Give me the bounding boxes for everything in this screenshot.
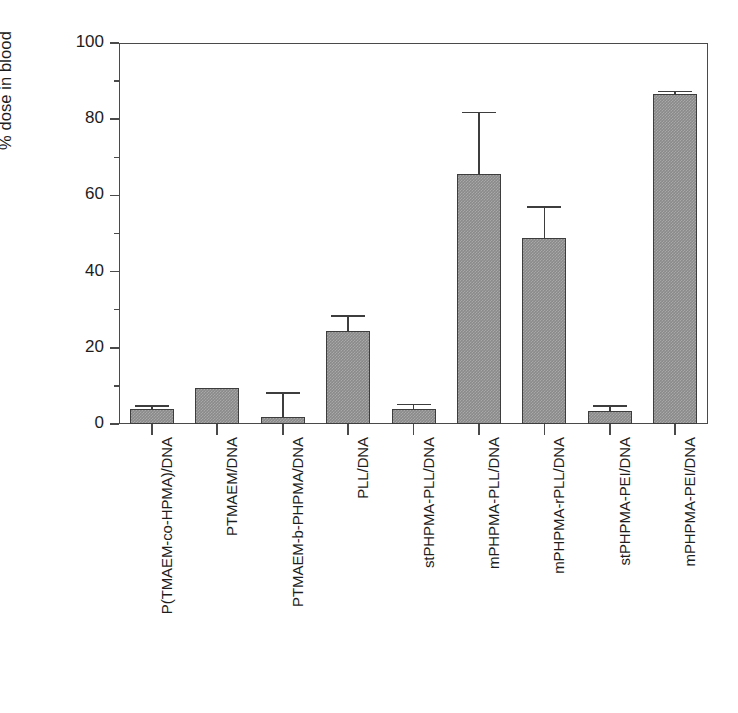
error-bar-cap — [658, 91, 692, 93]
bar-group[interactable] — [457, 43, 501, 424]
bar[interactable] — [457, 174, 501, 424]
x-axis-label: PTMAEM/DNA — [223, 437, 240, 536]
y-tick-mark — [110, 118, 119, 120]
y-axis-title: % dose in blood — [0, 0, 15, 150]
x-axis-label: mPHPMA-PLL/DNA — [485, 437, 502, 569]
x-axis-label: P(TMAEM-co-HPMA)/DNA — [158, 437, 175, 614]
error-bar-cap — [462, 112, 496, 114]
bar-group[interactable] — [261, 43, 305, 424]
bars-layer — [119, 43, 708, 424]
bar-group[interactable] — [653, 43, 697, 424]
y-tick-label: 80 — [85, 108, 104, 128]
x-tick-mark — [413, 424, 415, 435]
bar[interactable] — [588, 411, 632, 424]
error-bar-stem — [347, 315, 349, 330]
x-tick-mark — [544, 424, 546, 435]
bar[interactable] — [130, 409, 174, 424]
bar[interactable] — [261, 417, 305, 424]
bar[interactable] — [653, 94, 697, 424]
error-bar-cap — [593, 405, 627, 407]
y-tick-label: 0 — [95, 413, 104, 433]
bar-group[interactable] — [130, 43, 174, 424]
error-bar-stem — [478, 112, 480, 175]
bar-group[interactable] — [588, 43, 632, 424]
error-bar-cap — [331, 315, 365, 317]
x-tick-mark — [151, 424, 153, 435]
bar-group[interactable] — [522, 43, 566, 424]
y-tick-label: 20 — [85, 337, 104, 357]
bar-group[interactable] — [392, 43, 436, 424]
x-axis-label: mPHPMA-rPLL/DNA — [550, 437, 567, 574]
x-axis-label: stPHPMA-PLL/DNA — [420, 437, 437, 568]
error-bar-cap — [135, 405, 169, 407]
x-tick-mark — [282, 424, 284, 435]
x-tick-mark — [216, 424, 218, 435]
bar-group[interactable] — [195, 43, 239, 424]
x-axis-label: stPHPMA-PEI/DNA — [616, 437, 633, 566]
y-tick-label: 60 — [85, 184, 104, 204]
bar[interactable] — [326, 331, 370, 424]
x-axis-label: PTMAEM-b-PHPMA/DNA — [289, 437, 306, 607]
y-tick-mark — [110, 347, 119, 349]
error-bar-stem — [544, 206, 546, 238]
y-tick-mark — [110, 271, 119, 273]
bar[interactable] — [195, 388, 239, 424]
error-bar-cap — [397, 404, 431, 406]
y-tick-label: 100 — [76, 32, 104, 52]
y-tick-mark — [110, 423, 119, 425]
y-tick-label: 40 — [85, 261, 104, 281]
y-tick-mark — [110, 42, 119, 44]
error-bar-stem — [282, 392, 284, 417]
x-axis-label: PLL/DNA — [354, 437, 371, 499]
bar-chart: % dose in blood 020406080100 P(TMAEM-co-… — [0, 0, 738, 713]
x-tick-mark — [478, 424, 480, 435]
bar-group[interactable] — [326, 43, 370, 424]
error-bar-cap — [527, 206, 561, 208]
x-tick-mark — [609, 424, 611, 435]
bar[interactable] — [522, 238, 566, 424]
bar[interactable] — [392, 409, 436, 424]
x-axis-label: mPHPMA-PEI/DNA — [681, 437, 698, 566]
x-tick-mark — [347, 424, 349, 435]
y-tick-mark — [110, 195, 119, 197]
x-tick-mark — [674, 424, 676, 435]
error-bar-cap — [266, 392, 300, 394]
